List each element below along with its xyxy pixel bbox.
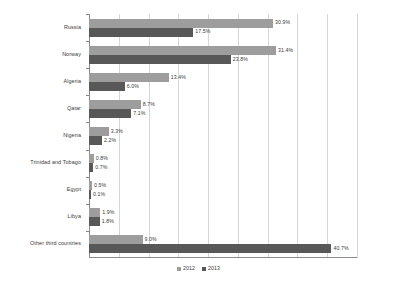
category-label: Other third countries <box>30 241 81 246</box>
bar-group: 0.5%0.1% <box>89 177 357 204</box>
bar-value-label: 3.3% <box>111 129 123 134</box>
bar-chart: RussiaNorwayAlgeriaQatarNigeriaTrinidad … <box>0 0 397 289</box>
bar-value-label: 31.4% <box>278 48 293 53</box>
bar-item: 6.0% <box>89 82 357 91</box>
bar-value-label: 0.7% <box>95 165 107 170</box>
bar-value-label: 17.5% <box>195 29 210 34</box>
legend-label: 2012 <box>183 266 195 271</box>
axis-tick <box>86 95 89 96</box>
bar-rows: 30.9%17.5%31.4%23.8%13.4%6.0%8.7%7.1%3.3… <box>89 14 357 258</box>
bar-2012 <box>89 46 276 55</box>
bar-2013 <box>89 217 100 226</box>
bar-value-label: 30.9% <box>275 20 290 25</box>
bar-2013 <box>89 190 91 199</box>
bar-item: 31.4% <box>89 46 357 55</box>
category-label: Russia <box>64 25 81 30</box>
bar-2012 <box>89 181 92 190</box>
axis-tick <box>86 68 89 69</box>
bar-group: 9.0%40.7% <box>89 231 357 258</box>
category-label: Algeria <box>64 79 81 84</box>
bar-group: 3.3%2.2% <box>89 122 357 149</box>
legend-swatch-icon <box>202 267 206 271</box>
legend-item-2013[interactable]: 2013 <box>202 266 220 271</box>
plot-area: 30.9%17.5%31.4%23.8%13.4%6.0%8.7%7.1%3.3… <box>89 14 357 258</box>
bar-item: 3.3% <box>89 127 357 136</box>
bar-value-label: 1.9% <box>102 210 114 215</box>
category-label: Norway <box>62 52 81 57</box>
bar-value-label: 7.1% <box>133 111 145 116</box>
bar-value-label: 9.0% <box>145 237 157 242</box>
category-label: Libya <box>68 214 81 219</box>
category-label: Trinidad and Tobago <box>30 160 81 165</box>
bar-value-label: 13.4% <box>171 75 186 80</box>
bar-group: 31.4%23.8% <box>89 41 357 68</box>
bar-2013 <box>89 109 131 118</box>
bar-2012 <box>89 154 94 163</box>
legend-item-2012[interactable]: 2012 <box>177 266 195 271</box>
bar-value-label: 1.8% <box>102 219 114 224</box>
bar-value-label: 0.8% <box>96 156 108 161</box>
bar-2013 <box>89 55 231 64</box>
gridline <box>357 14 358 258</box>
axis-tick <box>86 14 89 15</box>
bar-2013 <box>89 136 102 145</box>
bar-item: 0.1% <box>89 190 357 199</box>
axis-tick <box>86 122 89 123</box>
bar-value-label: 0.1% <box>93 192 105 197</box>
bar-group: 1.9%1.8% <box>89 204 357 231</box>
bar-item: 1.8% <box>89 217 357 226</box>
category-label: Qatar <box>67 106 81 111</box>
legend-swatch-icon <box>177 267 181 271</box>
bar-2012 <box>89 19 273 28</box>
bar-item: 23.8% <box>89 55 357 64</box>
axis-tick <box>86 231 89 232</box>
bar-item: 2.2% <box>89 136 357 145</box>
bar-item: 0.5% <box>89 181 357 190</box>
bar-item: 17.5% <box>89 28 357 37</box>
bar-2012 <box>89 127 109 136</box>
bar-2012 <box>89 235 143 244</box>
axis-tick <box>86 177 89 178</box>
bar-item: 8.7% <box>89 100 357 109</box>
bar-2012 <box>89 100 141 109</box>
bar-item: 1.9% <box>89 208 357 217</box>
axis-tick <box>86 41 89 42</box>
bar-value-label: 0.5% <box>94 183 106 188</box>
axis-tick <box>86 204 89 205</box>
bar-value-label: 23.8% <box>233 57 248 62</box>
bar-item: 7.1% <box>89 109 357 118</box>
bar-group: 8.7%7.1% <box>89 95 357 122</box>
bar-item: 40.7% <box>89 244 357 253</box>
bar-value-label: 2.2% <box>104 138 116 143</box>
category-label: Nigeria <box>63 133 81 138</box>
bar-item: 9.0% <box>89 235 357 244</box>
bar-2013 <box>89 244 331 253</box>
bar-2012 <box>89 73 169 82</box>
axis-tick <box>86 150 89 151</box>
chart-legend: 20122013 <box>0 266 397 271</box>
bar-2013 <box>89 163 93 172</box>
category-label: Egypt <box>67 187 81 192</box>
bar-2013 <box>89 82 125 91</box>
legend-label: 2013 <box>208 266 220 271</box>
bar-item: 13.4% <box>89 73 357 82</box>
bar-item: 30.9% <box>89 19 357 28</box>
bar-value-label: 8.7% <box>143 102 155 107</box>
bar-value-label: 40.7% <box>333 246 348 251</box>
bar-2013 <box>89 28 193 37</box>
bar-2012 <box>89 208 100 217</box>
bar-item: 0.7% <box>89 163 357 172</box>
bar-group: 13.4%6.0% <box>89 68 357 95</box>
bar-value-label: 6.0% <box>127 84 139 89</box>
category-axis-labels: RussiaNorwayAlgeriaQatarNigeriaTrinidad … <box>0 14 85 258</box>
bar-item: 0.8% <box>89 154 357 163</box>
bar-group: 30.9%17.5% <box>89 14 357 41</box>
bar-group: 0.8%0.7% <box>89 150 357 177</box>
